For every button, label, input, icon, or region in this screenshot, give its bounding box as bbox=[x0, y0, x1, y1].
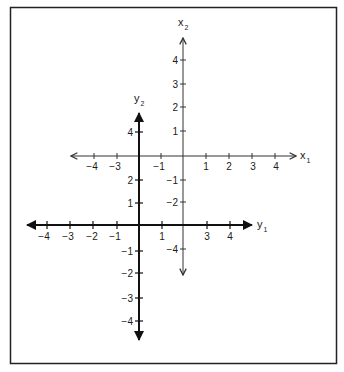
y1-tick-label: 3 bbox=[204, 231, 210, 242]
x2-tick-label: 3 bbox=[172, 79, 178, 90]
y1-tick-label: −1 bbox=[109, 231, 121, 242]
x1-tick-label: −3 bbox=[109, 161, 121, 172]
y1-tick-label: 1 bbox=[159, 231, 165, 242]
y2-tick-label: −4 bbox=[122, 316, 134, 327]
x1-tick-label: −4 bbox=[86, 161, 98, 172]
y2-tick-label: 1 bbox=[127, 198, 133, 209]
y1-tick-label: −4 bbox=[38, 231, 50, 242]
x1-tick-label: 1 bbox=[203, 161, 209, 172]
y1-tick-label: 4 bbox=[227, 231, 233, 242]
y1-tick-label: −3 bbox=[62, 231, 74, 242]
x2-tick-label: 2 bbox=[172, 102, 178, 113]
y1-tick-label: −2 bbox=[86, 231, 98, 242]
x2-tick-label: −2 bbox=[167, 197, 179, 208]
x2-tick-label: 4 bbox=[172, 55, 178, 66]
y2-tick-label: −3 bbox=[122, 293, 134, 304]
x1-tick-label: 2 bbox=[226, 161, 232, 172]
y2-tick-label: −2 bbox=[122, 268, 134, 279]
x1-tick-label: 4 bbox=[273, 161, 279, 172]
x2-tick-label: −1 bbox=[167, 175, 179, 186]
x2-tick-label: −4 bbox=[167, 244, 179, 255]
x1-tick-label: 3 bbox=[250, 161, 256, 172]
diagram-canvas: −4 −3 −1 1 2 3 4 4 3 2 1 −1 −2 −4 x1 x2 bbox=[0, 0, 344, 372]
y2-tick-label: −1 bbox=[122, 246, 134, 257]
x1-tick-label: −1 bbox=[153, 161, 165, 172]
x2-tick-label: 1 bbox=[172, 126, 178, 137]
y2-tick-label: 4 bbox=[127, 127, 133, 138]
y2-tick-label: 2 bbox=[127, 175, 133, 186]
coordinate-systems-figure: −4 −3 −1 1 2 3 4 4 3 2 1 −1 −2 −4 x1 x2 bbox=[0, 0, 344, 372]
